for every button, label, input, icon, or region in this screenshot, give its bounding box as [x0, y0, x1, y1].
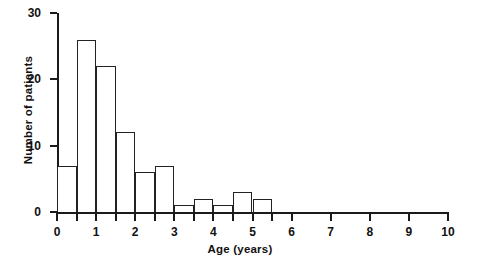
x-minor-tick-4-5 — [232, 212, 234, 221]
x-tick-10 — [447, 212, 449, 221]
x-minor-tick-1-5 — [115, 212, 117, 221]
x-minor-tick-0-5 — [76, 212, 78, 221]
y-tick-label-30: 30 — [28, 6, 41, 20]
y-tick-20: 20 — [50, 78, 57, 80]
y-axis-label: Number of patients — [22, 20, 34, 200]
x-minor-tick-2-5 — [154, 212, 156, 221]
x-tick-5 — [252, 212, 254, 221]
plot-area: 0102030 012345678910 — [57, 13, 448, 213]
x-tick-label-0: 0 — [54, 225, 61, 239]
histogram-bar — [174, 205, 194, 212]
x-tick-label-7: 7 — [327, 225, 334, 239]
y-tick-label-20: 20 — [28, 72, 41, 86]
histogram-bar — [155, 166, 175, 212]
x-tick-label-10: 10 — [441, 225, 454, 239]
y-tick-30: 30 — [50, 12, 57, 14]
x-tick-label-8: 8 — [366, 225, 373, 239]
histogram-bar — [116, 132, 136, 212]
x-tick-label-3: 3 — [171, 225, 178, 239]
histogram-bar — [213, 205, 233, 212]
x-tick-8 — [369, 212, 371, 221]
x-minor-tick-3-5 — [193, 212, 195, 221]
x-tick-label-5: 5 — [249, 225, 256, 239]
histogram-bar — [135, 172, 155, 212]
histogram-bar — [96, 66, 116, 212]
x-axis-label: Age (years) — [0, 243, 480, 255]
x-tick-4 — [212, 212, 214, 221]
histogram-bar — [77, 40, 97, 212]
histogram-bar — [253, 199, 273, 212]
x-tick-label-4: 4 — [210, 225, 217, 239]
x-tick-7 — [330, 212, 332, 221]
x-minor-tick-5-5 — [271, 212, 273, 221]
x-tick-label-6: 6 — [288, 225, 295, 239]
x-tick-0 — [56, 212, 58, 221]
x-tick-label-9: 9 — [406, 225, 413, 239]
x-tick-3 — [173, 212, 175, 221]
x-tick-1 — [95, 212, 97, 221]
histogram-bar — [233, 192, 253, 212]
x-tick-label-1: 1 — [93, 225, 100, 239]
y-tick-label-0: 0 — [34, 205, 41, 219]
x-tick-2 — [134, 212, 136, 221]
histogram-bar — [194, 199, 214, 212]
x-tick-label-2: 2 — [132, 225, 139, 239]
y-tick-label-10: 10 — [28, 139, 41, 153]
histogram-figure: Number of patients Age (years) 0102030 0… — [0, 0, 480, 269]
x-tick-9 — [408, 212, 410, 221]
histogram-bar — [57, 166, 77, 212]
y-tick-10: 10 — [50, 145, 57, 147]
x-tick-6 — [291, 212, 293, 221]
